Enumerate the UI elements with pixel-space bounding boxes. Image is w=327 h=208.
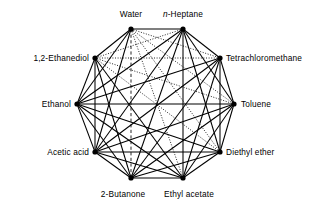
graph-node-tetrachloromethane[interactable] bbox=[217, 55, 222, 60]
graph-edge bbox=[77, 29, 183, 104]
graph-edge bbox=[220, 58, 234, 104]
graph-node-ethanol[interactable] bbox=[74, 101, 79, 106]
solvent-miscibility-diagram: Watern-HeptaneTetrachloromethaneTolueneD… bbox=[0, 0, 327, 208]
graph-node-water[interactable] bbox=[128, 26, 133, 31]
node-label-1,2-ethanediol: 1,2-Ethanediol bbox=[33, 54, 89, 62]
graph-edge bbox=[183, 29, 220, 152]
graph-edge bbox=[77, 29, 131, 104]
graph-edge bbox=[183, 29, 220, 58]
graph-edge bbox=[95, 58, 131, 178]
node-label-2-butanone: 2-Butanone bbox=[101, 190, 145, 198]
graph-edge bbox=[131, 29, 220, 58]
node-label-water: Water bbox=[120, 10, 143, 18]
graph-edge bbox=[77, 104, 131, 178]
graph-node-2-butanone[interactable] bbox=[128, 175, 133, 180]
graph-edge bbox=[183, 152, 220, 178]
italic-prefix: n bbox=[163, 9, 168, 19]
graph-edge bbox=[131, 58, 220, 178]
node-label-acetic-acid: Acetic acid bbox=[47, 148, 89, 156]
graph-edge bbox=[220, 104, 234, 152]
graph-node-ethyl-acetate[interactable] bbox=[180, 175, 185, 180]
node-label-tetrachloromethane: Tetrachloromethane bbox=[226, 54, 302, 62]
graph-node-1,2-ethanediol[interactable] bbox=[92, 55, 97, 60]
graph-edge bbox=[77, 104, 95, 152]
graph-edge bbox=[77, 104, 183, 178]
graph-edge bbox=[95, 152, 131, 178]
graph-edge bbox=[95, 29, 131, 152]
node-label-n-heptane: n-Heptane bbox=[163, 10, 203, 18]
graph-edge bbox=[131, 152, 220, 178]
graph-edge bbox=[95, 29, 183, 58]
node-label-ethyl-acetate: Ethyl acetate bbox=[164, 190, 214, 198]
graph-node-toluene[interactable] bbox=[231, 101, 236, 106]
graph-edge bbox=[95, 58, 183, 178]
graph-node-diethyl-ether[interactable] bbox=[217, 149, 222, 154]
node-label-ethanol: Ethanol bbox=[42, 100, 71, 108]
edge-layer bbox=[77, 29, 234, 178]
graph-node-n-heptane[interactable] bbox=[180, 26, 185, 31]
node-label-diethyl-ether: Diethyl ether bbox=[226, 148, 275, 156]
graph-node-acetic-acid[interactable] bbox=[92, 149, 97, 154]
node-label-toluene: Toluene bbox=[241, 100, 271, 108]
